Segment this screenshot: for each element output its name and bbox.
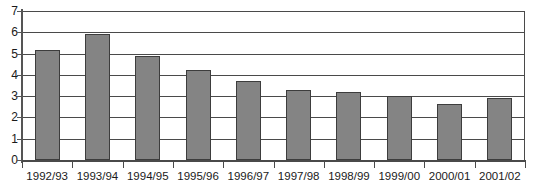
bar [35,50,60,160]
x-axis-tick-mark [223,160,224,168]
y-axis-tick-label: 7 [0,5,18,17]
x-axis-tick-label: 1995/96 [173,170,223,183]
x-axis-tick-label: 1997/98 [274,170,324,183]
y-axis-tick-mark [17,54,23,55]
bar [437,104,462,160]
x-axis-tick-mark [173,160,174,168]
x-axis-tick-label: 2001/02 [475,170,525,183]
x-axis-tick-label: 1992/93 [22,170,72,183]
bar [286,90,311,160]
y-axis-tick-label: 1 [0,133,18,145]
x-axis-tick-mark [22,160,23,168]
y-axis-tick-label: 2 [0,111,18,123]
plot-right-border [524,11,525,160]
bar [387,96,412,160]
bar [85,34,110,160]
bar-chart: 01234567 1992/931993/941994/951995/96199… [0,0,535,190]
y-axis-tick-label: 6 [0,26,18,38]
x-axis-tick-mark [475,160,476,168]
x-axis-tick-label: 1993/94 [72,170,122,183]
x-axis-tick-mark [123,160,124,168]
y-axis-tick-mark [17,96,23,97]
x-axis-tick-mark [274,160,275,168]
x-axis-tick-mark [525,160,526,168]
bar [186,70,211,160]
plot-area [22,11,525,160]
x-axis-tick-mark [374,160,375,168]
x-axis-tick-label: 1996/97 [223,170,273,183]
x-axis-tick-label: 1998/99 [324,170,374,183]
x-axis-tick-mark [72,160,73,168]
gridline [22,11,525,12]
bar [236,81,261,160]
y-axis-tick-mark [17,139,23,140]
y-axis-tick-label: 3 [0,90,18,102]
x-axis-tick-mark [324,160,325,168]
y-axis-labels: 01234567 [0,0,18,190]
bar [336,92,361,160]
x-axis-tick-label: 1999/00 [374,170,424,183]
y-axis-tick-label: 4 [0,69,18,81]
gridline [22,32,525,33]
y-axis-tick-label: 5 [0,48,18,60]
y-axis-tick-label: 0 [0,154,18,166]
x-axis-tick-label: 2000/01 [424,170,474,183]
bar [487,98,512,160]
x-axis-tick-label: 1994/95 [123,170,173,183]
y-axis-tick-mark [17,117,23,118]
y-axis-tick-mark [17,32,23,33]
y-axis-tick-mark [17,75,23,76]
bar [135,56,160,160]
y-axis-tick-mark [17,11,23,12]
x-axis-tick-mark [424,160,425,168]
